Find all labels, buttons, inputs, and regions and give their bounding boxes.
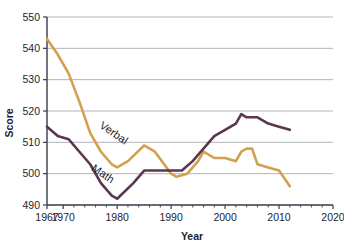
y-tick-label-550: 550 [22,11,40,23]
y-tick-label-520: 520 [22,105,40,117]
y-tick-label-500: 500 [22,167,40,179]
x-tick-label-2020: 2020 [321,211,344,223]
sat-scores-line-chart: 490500510520530540550 196719701980199020… [0,0,344,249]
x-tick-label-1970: 1970 [52,211,76,223]
x-tick-label-1980: 1980 [105,211,129,223]
y-axis-title: Score [3,108,15,137]
x-tick-label-2010: 2010 [267,211,291,223]
x-axis-title: Year [181,230,203,242]
y-tick-label-490: 490 [22,199,40,211]
y-tick-label-530: 530 [22,73,40,85]
y-tick-label-510: 510 [22,136,40,148]
x-tick-label-1990: 1990 [159,211,183,223]
x-tick-label-2000: 2000 [213,211,237,223]
y-tick-label-540: 540 [22,42,40,54]
chart-canvas: 490500510520530540550 196719701980199020… [0,0,344,249]
